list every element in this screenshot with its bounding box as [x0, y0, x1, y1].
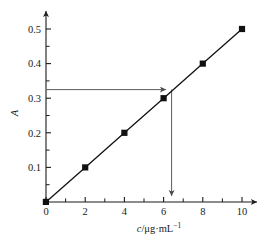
calibration-curve-chart: 0.1 0.2 0.3 0.4 0.5 A: [0, 0, 267, 241]
data-point-marker: [161, 95, 167, 101]
x-tick-label-1: 2: [83, 206, 88, 217]
x-tick-label-2: 4: [122, 206, 128, 217]
data-point-marker: [43, 199, 49, 205]
x-tick-label-4: 8: [200, 206, 205, 217]
x-axis-title-exponent: −1: [173, 221, 181, 230]
y-tick-label-0: 0.1: [28, 162, 41, 173]
y-axis-title: A: [9, 109, 20, 117]
data-point-marker: [239, 26, 245, 32]
y-tick-label-3: 0.4: [28, 58, 42, 69]
y-tick-label-2: 0.3: [28, 93, 41, 104]
data-point-marker: [82, 164, 88, 170]
y-tick-label-1: 0.2: [28, 128, 41, 139]
chart-screenshot: 0.1 0.2 0.3 0.4 0.5 A: [0, 0, 267, 241]
x-tick-label-5: 10: [237, 206, 248, 217]
x-tick-label-3: 6: [161, 206, 166, 217]
data-point-marker: [200, 61, 206, 67]
plot-background: [0, 0, 267, 241]
y-tick-label-4: 0.5: [28, 24, 41, 35]
x-axis-title-unit: μg·mL: [144, 223, 173, 234]
x-tick-label-0: 0: [43, 206, 48, 217]
data-point-marker: [121, 130, 127, 136]
